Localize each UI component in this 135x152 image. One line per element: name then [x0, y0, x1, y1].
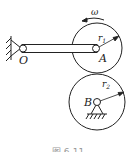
- figure-caption: 图 6-11: [52, 147, 84, 152]
- label-a: A: [98, 52, 107, 65]
- mechanism-diagram: O A B ω r1 r2 图 6-11: [0, 0, 135, 152]
- pivot-o: [20, 45, 27, 52]
- label-o: O: [19, 54, 28, 67]
- pin-a: [93, 45, 100, 52]
- crank-rod-oa: [22, 45, 97, 53]
- label-omega: ω: [91, 7, 99, 17]
- label-b: B: [83, 96, 92, 109]
- angular-velocity-arrow: [82, 18, 104, 22]
